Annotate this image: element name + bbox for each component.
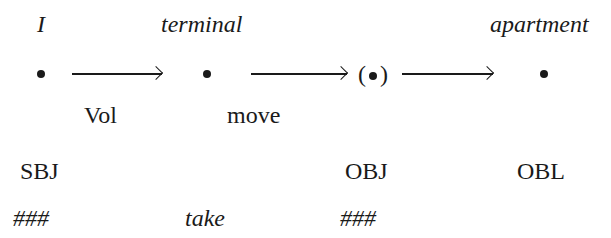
paren-open: ( (358, 61, 366, 87)
role-label-sbj: SBJ (20, 159, 59, 183)
node-i (37, 70, 45, 78)
optional-node: () (358, 62, 388, 86)
bottom-verb-take: take (185, 206, 225, 230)
node-terminal (203, 70, 211, 78)
relation-label-move: move (227, 103, 280, 127)
arrow-move (251, 73, 347, 75)
participant-label-apartment: apartment (490, 12, 589, 36)
paren-close: ) (380, 61, 388, 87)
participant-label-i: I (37, 12, 45, 36)
role-label-obj: OBJ (345, 159, 388, 183)
node-apartment (540, 70, 548, 78)
bottom-hash-2: ### (340, 206, 376, 230)
relation-label-vol: Vol (84, 103, 117, 127)
participant-label-terminal: terminal (161, 12, 242, 36)
role-label-obl: OBL (517, 159, 565, 183)
bottom-hash-1: ### (13, 206, 49, 230)
arrow-vol (72, 73, 162, 75)
node-optional (369, 72, 377, 80)
arrow-unlabeled (402, 73, 493, 75)
